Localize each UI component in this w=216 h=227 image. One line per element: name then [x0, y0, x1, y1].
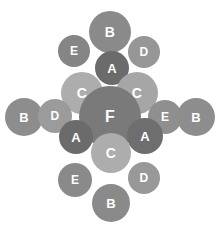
circle-node-label: D [140, 172, 149, 184]
circle-node-label: B [19, 111, 29, 124]
circle-node-label: B [105, 25, 115, 39]
circle-node-label: E [161, 111, 169, 123]
circle-node-label: D [51, 110, 60, 122]
circle-node-label: F [105, 109, 115, 125]
circle-node-a: A [127, 118, 163, 154]
circle-node-label: C [106, 146, 116, 160]
circle-node-b: B [92, 184, 130, 222]
circle-node-b: B [177, 98, 215, 136]
circle-node-e: E [58, 35, 90, 67]
circle-node-label: E [71, 174, 79, 186]
circle-node-e: E [58, 163, 92, 197]
circle-node-a: A [59, 120, 93, 154]
circle-node-d: D [128, 162, 160, 194]
circle-node-label: B [106, 197, 116, 210]
circle-node-label: B [191, 111, 201, 124]
circle-node-label: E [70, 45, 78, 57]
circle-node-label: A [71, 131, 81, 144]
circle-node-d: D [128, 36, 160, 68]
circle-node-label: A [107, 62, 117, 75]
circle-node-b: B [89, 11, 131, 53]
circle-node-label: D [140, 46, 149, 58]
circle-node-label: A [140, 130, 150, 143]
diagram-canvas: BEDACCBDFEBAACEDB [0, 0, 216, 227]
circle-node-c: C [91, 133, 131, 173]
